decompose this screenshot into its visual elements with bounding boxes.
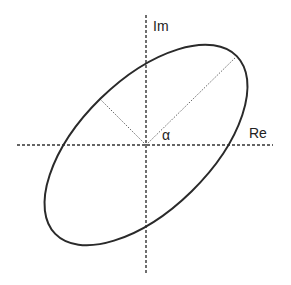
major-axis-guide bbox=[146, 56, 237, 145]
minor-axis-guide bbox=[100, 99, 146, 145]
angle-alpha-label: α bbox=[162, 128, 170, 142]
imaginary-axis-label: Im bbox=[153, 19, 169, 33]
ellipse-diagram bbox=[0, 0, 291, 285]
real-axis-label: Re bbox=[249, 126, 267, 140]
